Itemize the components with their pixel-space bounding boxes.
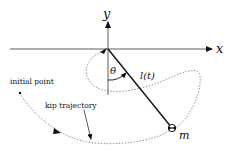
y-axis-label: y <box>102 6 111 21</box>
initial-point-label: initial point <box>10 77 54 86</box>
theta-label: θ <box>110 65 116 76</box>
loop-trajectory <box>86 51 200 128</box>
trajectory-arrow-icon <box>53 128 61 134</box>
kip-trajectory-leader <box>84 110 91 139</box>
mass-icon <box>168 124 175 131</box>
initial-point-dot <box>19 92 21 94</box>
length-label: l(t) <box>140 70 155 81</box>
x-axis-label: x <box>216 41 224 56</box>
pendulum-diagram: y x θ l(t) m initial point kip trajector… <box>0 0 234 152</box>
kip-trajectory-label: kip trajectory <box>45 101 97 110</box>
mass-label: m <box>179 129 189 142</box>
pendulum-rod <box>108 49 172 128</box>
